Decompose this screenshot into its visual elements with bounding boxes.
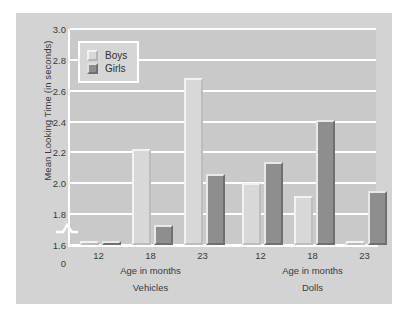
gridline: [70, 90, 376, 92]
chart-figure: Mean Looking Time (in seconds) 3.02.82.6…: [16, 13, 392, 304]
panel-axis-label-vehicles: Age in months: [71, 265, 231, 276]
y-axis-tick-labels: 3.02.82.62.42.22.01.81.60: [16, 13, 66, 304]
legend-item-girls: Girls: [87, 63, 127, 74]
y-tick-label: 1.8: [24, 209, 66, 220]
legend-item-boys: Boys: [87, 50, 127, 61]
y-tick-label: 2.4: [24, 116, 66, 127]
legend-label-girls: Girls: [105, 63, 126, 74]
x-tick-label: 23: [183, 250, 223, 261]
y-tick-label: 2.0: [24, 178, 66, 189]
y-tick-label: 2.8: [24, 54, 66, 65]
x-tick-label: 12: [79, 250, 119, 261]
legend-swatch-boys: [87, 50, 98, 61]
panel-name-dolls: Dolls: [233, 282, 393, 293]
gridline: [70, 28, 376, 30]
x-axis-baseline: [68, 245, 378, 247]
panel-axis-label-dolls: Age in months: [233, 265, 393, 276]
x-tick-label: 12: [241, 250, 281, 261]
bar-vehicles-23-girls: [206, 174, 225, 245]
legend-label-boys: Boys: [105, 50, 127, 61]
y-tick-label: 3.0: [24, 24, 66, 35]
bar-vehicles-23-boys: [184, 78, 203, 245]
bar-dolls-12-boys: [242, 183, 261, 245]
bar-dolls-18-girls: [316, 120, 335, 245]
panel-name-vehicles: Vehicles: [71, 282, 231, 293]
legend-swatch-girls: [87, 63, 98, 74]
bar-vehicles-18-boys: [132, 149, 151, 245]
chart-legend: Boys Girls: [78, 41, 139, 83]
bar-dolls-18-boys: [294, 196, 313, 245]
y-tick-label: 1.6: [24, 240, 66, 251]
x-tick-label: 23: [345, 250, 385, 261]
axis-break-icon: [56, 221, 78, 236]
y-tick-label: 0: [24, 258, 66, 269]
y-tick-label: 2.2: [24, 147, 66, 158]
bar-dolls-12-girls: [264, 162, 283, 245]
bar-dolls-23-girls: [368, 191, 387, 245]
bar-vehicles-18-girls: [154, 225, 173, 245]
x-tick-label: 18: [293, 250, 333, 261]
y-tick-label: 2.6: [24, 85, 66, 96]
x-tick-label: 18: [131, 250, 171, 261]
